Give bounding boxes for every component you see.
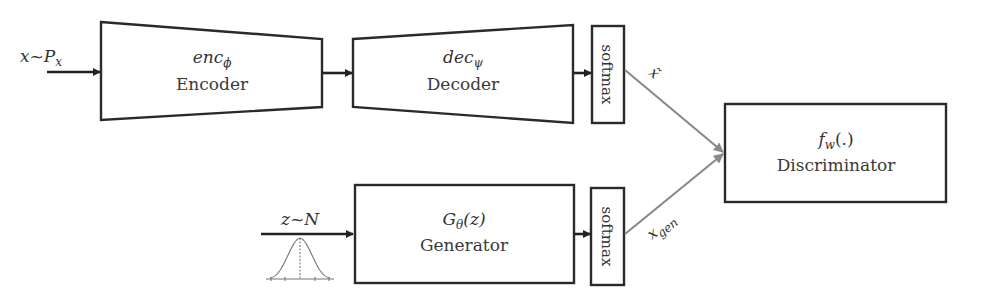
discriminator-shape (725, 104, 946, 202)
encoder-label: Encoder (176, 74, 249, 94)
generator-shape (355, 185, 574, 283)
generator-label: Generator (420, 235, 509, 255)
discriminator-function: fw(.) (816, 129, 853, 152)
reconstruction-arrow (625, 70, 723, 152)
decoder-block: decψ Decoder (353, 25, 573, 123)
encoder-shape (101, 22, 322, 120)
gaussian-distribution-icon (266, 238, 334, 281)
decoder-label: Decoder (427, 74, 500, 94)
generator-block: Gθ(z) Generator (355, 185, 574, 283)
softmax-top-label: softmax (598, 45, 616, 105)
generator-function: Gθ(z) (442, 209, 485, 232)
svg-text:x~Px: x~Px (20, 46, 62, 69)
discriminator-block: fw(.) Discriminator (725, 104, 946, 202)
encoder-block: encϕ Encoder (101, 22, 322, 120)
softmax-bottom-label: softmax (598, 207, 616, 267)
svg-text:z~N: z~N (280, 209, 320, 229)
noise-label: z~N (280, 209, 320, 229)
reconstruction-label: x̃ (645, 63, 663, 83)
input-label: x~Px (20, 46, 62, 69)
vae-gan-diagram: x~Px encϕ Encoder decψ Decoder softmax z… (0, 0, 991, 300)
softmax-bottom-block: softmax (591, 188, 624, 285)
softmax-top-block: softmax (592, 26, 624, 123)
discriminator-label: Discriminator (777, 155, 897, 175)
